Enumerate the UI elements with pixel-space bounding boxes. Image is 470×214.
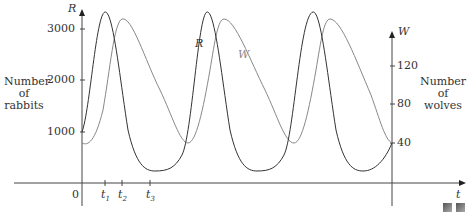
- left-axis-title: Numberofrabbits: [4, 76, 44, 112]
- tick-2000: 2000: [47, 73, 75, 86]
- r-axis-arrow-icon: [79, 9, 85, 16]
- tick-40: 40: [397, 136, 411, 149]
- origin-label: 0: [72, 188, 79, 201]
- decorative-square-icon: [443, 203, 452, 212]
- t1-label: t1: [101, 188, 110, 203]
- predator-prey-chart: R W t 3000 2000 1000 120 80 40 Numberofr…: [0, 0, 470, 214]
- t2-label: t2: [118, 188, 127, 203]
- r-axis-label: R: [68, 2, 76, 15]
- t3-label: t3: [146, 188, 155, 203]
- t-axis-arrow-icon: [459, 180, 466, 186]
- t-axis-label: t: [456, 188, 460, 201]
- decorative-square-icon: [456, 203, 465, 212]
- tick-3000: 3000: [47, 22, 75, 35]
- right-axis-title: Numberofwolves: [420, 76, 466, 112]
- w-axis-label: W: [398, 25, 409, 38]
- tick-80: 80: [397, 97, 411, 110]
- tick-120: 120: [397, 59, 418, 72]
- w-axis-arrow-icon: [389, 31, 395, 38]
- curve-w-annotation: W: [238, 48, 249, 61]
- curve-r-annotation: R: [195, 37, 203, 50]
- wolves-curve: [82, 19, 392, 144]
- tick-1000: 1000: [47, 125, 75, 138]
